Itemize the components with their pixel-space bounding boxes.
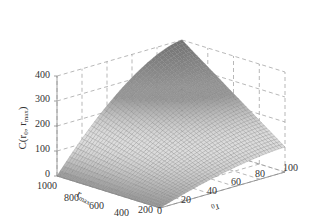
y-tick-label: 200 xyxy=(138,204,153,215)
z-tick-label: 400 xyxy=(35,69,50,80)
z-tick-label: 100 xyxy=(35,143,50,154)
x-axis-label: r0 xyxy=(209,200,221,216)
z-tick-label: 200 xyxy=(35,118,50,129)
x-tick-label: 40 xyxy=(207,185,217,196)
z-tick-label: 0 xyxy=(45,168,50,179)
x-tick-label: 60 xyxy=(231,176,241,187)
z-tick-label: 300 xyxy=(35,93,50,104)
surface-plot: 0 100 200 300 400 1000 800 600 400 200 0… xyxy=(0,0,312,219)
y-tick-label: 400 xyxy=(114,207,129,218)
z-axis-label: C(r0, rmax) xyxy=(16,106,30,149)
x-tick-label: 0 xyxy=(157,205,162,216)
surface xyxy=(57,40,285,208)
y-tick-label: 600 xyxy=(89,200,104,211)
x-tick-label: 80 xyxy=(255,168,265,179)
x-tick-label: 100 xyxy=(283,162,298,173)
y-tick-label: 1000 xyxy=(37,180,57,191)
x-tick-label: 20 xyxy=(181,194,191,205)
